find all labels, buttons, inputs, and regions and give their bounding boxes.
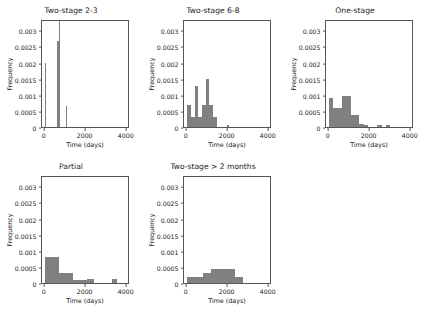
y-tick-mark — [181, 79, 184, 80]
y-tick-mark — [39, 284, 42, 285]
y-tick-mark — [181, 267, 184, 268]
x-tick-label: 2000 — [65, 288, 105, 295]
y-tick-mark — [39, 235, 42, 236]
x-tick-label: 0 — [308, 132, 348, 139]
x-tick-label: 4000 — [106, 132, 146, 139]
y-tick-label: 0 — [142, 281, 179, 288]
plot-area — [184, 177, 270, 283]
x-tick-label: 2000 — [65, 132, 105, 139]
y-tick-mark — [39, 63, 42, 64]
histogram-bar — [227, 125, 229, 127]
histogram-bar — [377, 125, 381, 127]
x-tick-label: 0 — [24, 132, 64, 139]
histogram-bar — [227, 269, 235, 283]
y-tick-mark — [181, 111, 184, 112]
histogram-bar — [211, 269, 219, 283]
y-tick-mark — [323, 95, 326, 96]
histogram-bar — [59, 21, 60, 127]
y-tick-mark — [181, 235, 184, 236]
y-tick-label: 0.003 — [0, 28, 37, 35]
x-tick-mark — [125, 128, 126, 131]
x-tick-mark — [43, 284, 44, 287]
x-tick-mark — [125, 284, 126, 287]
y-tick-mark — [39, 187, 42, 188]
axes-frame — [183, 176, 271, 284]
histogram-bar — [112, 279, 117, 283]
y-tick-label: 0.003 — [0, 184, 37, 191]
subplot-title: One-stage — [284, 6, 426, 15]
y-tick-mark — [181, 63, 184, 64]
x-tick-mark — [267, 284, 268, 287]
x-tick-mark — [84, 284, 85, 287]
x-tick-mark — [368, 128, 369, 131]
y-tick-mark — [181, 284, 184, 285]
x-tick-label: 2000 — [349, 132, 389, 139]
y-tick-mark — [323, 31, 326, 32]
x-tick-label: 4000 — [106, 288, 146, 295]
y-axis-label: Frequency — [148, 202, 156, 258]
y-tick-mark — [181, 187, 184, 188]
y-tick-label: 0.0005 — [0, 264, 37, 271]
axes-frame — [41, 20, 129, 128]
plot-area — [326, 21, 412, 127]
figure-canvas: Two-stage 2-300.00050.0010.00150.0020.00… — [0, 0, 426, 312]
y-tick-label: 0 — [0, 281, 37, 288]
y-tick-mark — [181, 251, 184, 252]
x-axis-label: Time (days) — [325, 141, 413, 149]
x-tick-mark — [185, 284, 186, 287]
y-tick-label: 0 — [284, 125, 321, 132]
y-tick-mark — [323, 63, 326, 64]
histogram-bar — [364, 125, 368, 127]
x-tick-mark — [226, 284, 227, 287]
x-tick-label: 0 — [24, 288, 64, 295]
y-axis-label: Frequency — [290, 46, 298, 102]
histogram-bar — [87, 279, 94, 283]
y-tick-mark — [39, 47, 42, 48]
histogram-bar — [235, 277, 243, 283]
y-tick-mark — [323, 47, 326, 48]
subplot-title: Two-stage 2-3 — [0, 6, 142, 15]
y-tick-mark — [39, 251, 42, 252]
y-tick-mark — [181, 47, 184, 48]
y-tick-label: 0 — [0, 125, 37, 132]
subplot-title: Partial — [0, 162, 142, 171]
y-tick-mark — [181, 95, 184, 96]
histogram-bar — [219, 269, 227, 283]
x-tick-mark — [43, 128, 44, 131]
y-tick-label: 0.0005 — [284, 108, 321, 115]
x-tick-mark — [327, 128, 328, 131]
x-tick-mark — [84, 128, 85, 131]
y-tick-label: 0.003 — [142, 28, 179, 35]
histogram-bar — [45, 257, 59, 283]
y-tick-label: 0.0005 — [142, 108, 179, 115]
x-axis-label: Time (days) — [183, 297, 271, 305]
x-tick-mark — [267, 128, 268, 131]
y-tick-label: 0 — [142, 125, 179, 132]
x-axis-label: Time (days) — [41, 297, 129, 305]
y-tick-mark — [323, 79, 326, 80]
x-tick-mark — [185, 128, 186, 131]
axes-frame — [325, 20, 413, 128]
histogram-bar — [187, 277, 195, 283]
y-tick-mark — [39, 128, 42, 129]
y-tick-mark — [39, 111, 42, 112]
plot-area — [42, 21, 128, 127]
subplot-two-stage-gt-2-months: Two-stage > 2 months00.00050.0010.00150.… — [142, 156, 284, 312]
x-tick-mark — [226, 128, 227, 131]
subplot-two-stage-6-8: Two-stage 6-800.00050.0010.00150.0020.00… — [142, 0, 284, 156]
y-tick-mark — [323, 128, 326, 129]
subplot-title: Two-stage 6-8 — [142, 6, 284, 15]
y-tick-mark — [39, 219, 42, 220]
x-tick-label: 0 — [166, 132, 206, 139]
subplot-one-stage: One-stage00.00050.0010.00150.0020.00250.… — [284, 0, 426, 156]
y-tick-label: 0.0005 — [0, 108, 37, 115]
plot-area — [42, 177, 128, 283]
subplot-title: Two-stage > 2 months — [142, 162, 284, 171]
y-tick-mark — [39, 31, 42, 32]
y-tick-mark — [39, 79, 42, 80]
x-tick-mark — [409, 128, 410, 131]
y-tick-mark — [181, 203, 184, 204]
y-tick-mark — [181, 219, 184, 220]
histogram-bar — [59, 273, 73, 283]
histogram-bar — [386, 125, 390, 127]
